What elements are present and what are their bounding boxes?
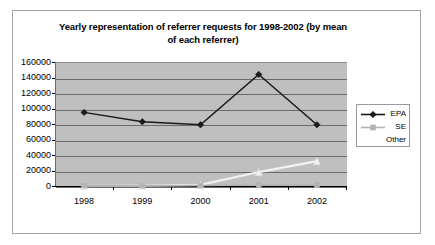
y-axis-tick-label: 120000 [3,89,51,98]
y-axis-tick-label: 0 [3,182,51,191]
gridline [56,156,347,157]
legend-item-other[interactable]: Other [357,133,409,146]
x-axis-tick-mark [113,187,114,190]
legend-marker-icon [360,120,386,133]
gridline [56,79,347,80]
x-axis-tick-mark [230,187,231,190]
y-axis-tick-mark [52,93,55,94]
y-axis-tick-mark [52,124,55,125]
gridline [56,94,347,95]
chart-title-line-1: Yearly representation of referrer reques… [43,20,363,33]
x-axis-tick-mark [171,187,172,190]
x-axis-line [54,186,347,187]
y-axis-tick-label: 160000 [3,58,51,67]
gridline [56,110,347,111]
legend-marker-icon [360,107,386,120]
y-axis-tick-mark [52,155,55,156]
plot-area [55,62,347,187]
y-axis-tick-label: 60000 [3,135,51,144]
legend-item-epa[interactable]: EPA [357,107,409,120]
chart-legend: EPASEOther [356,104,410,147]
gridline [56,141,347,142]
y-axis-tick-label: 100000 [3,104,51,113]
y-axis-tick-label: 40000 [3,151,51,160]
gridline [56,187,347,188]
y-axis-tick-mark [52,140,55,141]
x-axis-tick-label: 2000 [176,196,226,206]
x-axis-tick-label: 1999 [117,196,167,206]
y-axis-tick-mark [52,186,55,187]
chart-title-line-2: of each referrer) [43,33,363,46]
y-axis-tick-mark [52,109,55,110]
x-axis-tick-mark [346,187,347,190]
x-axis-tick-label: 2002 [292,196,342,206]
x-axis-tick-label: 1998 [59,196,109,206]
x-axis-tick-label: 2001 [234,196,284,206]
legend-item-se[interactable]: SE [357,120,409,133]
gridline [56,125,347,126]
gridline [56,172,347,173]
y-axis-tick-label: 20000 [3,166,51,175]
y-axis: 1600001400001200001000008000060000400002… [0,0,51,245]
y-axis-tick-label: 140000 [3,73,51,82]
x-axis-tick-mark [288,187,289,190]
y-axis-tick-mark [52,62,55,63]
y-axis-tick-mark [52,171,55,172]
legend-label: EPA [391,107,406,120]
y-axis-tick-label: 80000 [3,120,51,129]
legend-label: SE [395,120,406,133]
y-axis-tick-mark [52,78,55,79]
chart-title: Yearly representation of referrer reques… [43,20,363,46]
legend-label: Other [386,133,406,146]
